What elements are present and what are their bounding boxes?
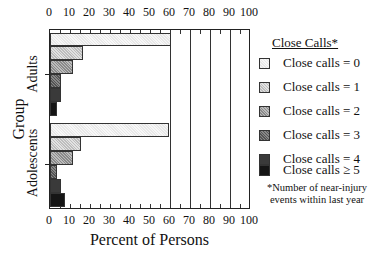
legend-item-2: Close calls = 2 (259, 104, 360, 118)
legend-label-3: Close calls = 3 (283, 127, 360, 143)
gridline-70 (190, 30, 191, 208)
tick (80, 204, 81, 208)
bottom-tick-0: 0 (46, 213, 52, 228)
tick (220, 204, 221, 208)
tick (150, 204, 151, 208)
legend-item-3: Close calls = 3 (259, 128, 360, 142)
legend-title: Close Calls* (272, 35, 338, 51)
top-tick-50: 50 (143, 5, 155, 20)
gridline-80 (210, 30, 211, 208)
bar-adolescents-4 (50, 179, 61, 193)
bottom-tick-50: 50 (143, 213, 155, 228)
tick (120, 204, 121, 208)
tick (240, 30, 241, 34)
top-tick-90: 90 (223, 5, 235, 20)
footnote-line-2: events within last year (264, 194, 370, 206)
bar-adults-1 (50, 46, 83, 60)
bar-adolescents-3 (50, 165, 57, 179)
tick (240, 204, 241, 208)
bottom-tick-40: 40 (123, 213, 135, 228)
top-tick-20: 20 (83, 5, 95, 20)
top-tick-30: 30 (103, 5, 115, 20)
top-tick-40: 40 (123, 5, 135, 20)
legend-label-2: Close calls = 2 (283, 103, 360, 119)
top-tick-100: 100 (240, 5, 258, 20)
tick (130, 204, 131, 208)
bar-adults-2 (50, 60, 73, 74)
bar-adults-3 (50, 74, 61, 88)
gridline-60 (170, 30, 171, 208)
group-label-adults: Adults (25, 49, 41, 99)
legend-item-5: Close calls ≥ 5 (259, 163, 360, 177)
tick (160, 204, 161, 208)
bar-adolescents-5 (50, 193, 65, 207)
legend-item-0: Close calls = 0 (259, 56, 360, 70)
top-tick-0: 0 (46, 5, 52, 20)
top-tick-70: 70 (183, 5, 195, 20)
legend-swatch-1 (259, 82, 270, 93)
bottom-tick-30: 30 (103, 213, 115, 228)
bar-adolescents-2 (50, 151, 73, 165)
legend-swatch-3 (259, 130, 270, 141)
footnote-line-1: *Number of near-injury (264, 182, 370, 194)
tick (100, 204, 101, 208)
tick (110, 204, 111, 208)
bar-adults-5 (50, 102, 57, 116)
bottom-tick-90: 90 (223, 213, 235, 228)
legend-swatch-0 (259, 58, 270, 69)
tick (180, 204, 181, 208)
tick (220, 30, 221, 34)
tick (70, 204, 71, 208)
bar-adults-4 (50, 88, 61, 102)
group-label-adolescents: Adolescents (25, 123, 41, 203)
tick (200, 204, 201, 208)
bottom-tick-10: 10 (63, 213, 75, 228)
bar-adults-0 (50, 33, 171, 46)
tick (200, 30, 201, 34)
top-tick-60: 60 (163, 5, 175, 20)
bottom-tick-70: 70 (183, 213, 195, 228)
legend-footnote: *Number of near-injury events within las… (264, 182, 370, 206)
legend-label-5: Close calls ≥ 5 (283, 162, 360, 178)
gridline-90 (230, 30, 231, 208)
tick (140, 204, 141, 208)
tick (180, 30, 181, 34)
bottom-tick-20: 20 (83, 213, 95, 228)
bar-adolescents-1 (50, 137, 81, 151)
bottom-tick-100: 100 (240, 213, 258, 228)
top-tick-10: 10 (63, 5, 75, 20)
legend-label-1: Close calls = 1 (283, 79, 360, 95)
legend-label-0: Close calls = 0 (283, 55, 360, 71)
bar-adolescents-0 (50, 123, 169, 137)
legend-swatch-5 (259, 165, 270, 176)
bottom-tick-60: 60 (163, 213, 175, 228)
legend-item-1: Close calls = 1 (259, 80, 360, 94)
tick (90, 204, 91, 208)
bottom-tick-80: 80 (203, 213, 215, 228)
legend-swatch-2 (259, 106, 270, 117)
x-axis-label: Percent of Persons (49, 231, 250, 249)
top-tick-80: 80 (203, 5, 215, 20)
plot-area (49, 29, 250, 209)
